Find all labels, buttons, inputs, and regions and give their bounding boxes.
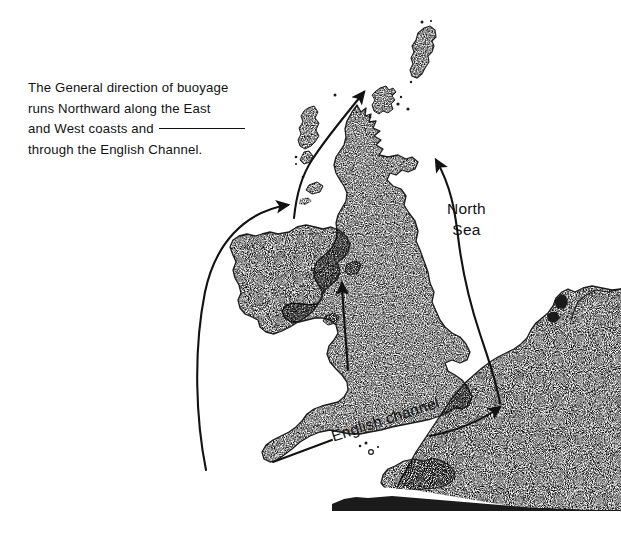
caption-line-1: The General direction of buoyage xyxy=(28,78,278,99)
orkney-islands xyxy=(369,86,403,118)
caption-line-3: and West coasts and xyxy=(28,119,278,140)
figure-canvas: The General direction of buoyage runs No… xyxy=(0,0,621,538)
fair-isle-dot xyxy=(406,107,409,110)
buoyage-caption: The General direction of buoyage runs No… xyxy=(28,78,278,160)
shetland-islands xyxy=(410,20,436,83)
channel-islands xyxy=(359,442,379,455)
caption-line-3-text: and West coasts and xyxy=(28,121,154,136)
outer-hebrides xyxy=(295,94,337,206)
caption-rule xyxy=(159,128,245,129)
caption-line-4: through the English Channel. xyxy=(28,140,278,161)
caption-line-2: runs Northward along the East xyxy=(28,99,278,120)
north-sea-label: North Sea xyxy=(447,198,486,240)
north-sea-label-line-1: North xyxy=(447,198,486,219)
north-sea-label-line-2: Sea xyxy=(447,219,486,240)
